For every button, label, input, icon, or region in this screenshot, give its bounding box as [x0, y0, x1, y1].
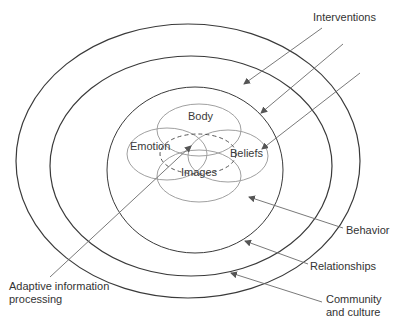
beliefs-label: Beliefs: [230, 147, 263, 160]
intervention-arrow-1: [244, 28, 322, 84]
community-label-line1: Community: [326, 293, 382, 306]
intervention-arrow-3: [262, 73, 360, 149]
aip-arrow: [50, 146, 191, 277]
community-arrow: [231, 273, 322, 302]
relationships-arrow: [245, 241, 308, 264]
behavior-arrow: [249, 197, 343, 228]
relationships-label: Relationships: [310, 260, 376, 273]
emotion-label: Emotion: [130, 140, 170, 153]
diagram-canvas: [0, 0, 398, 325]
aip-label-line2: processing: [9, 293, 62, 306]
aip-label-line1: Adaptive information: [9, 280, 109, 293]
body-label: Body: [188, 110, 213, 123]
images-label: Images: [181, 166, 217, 179]
interventions-label: Interventions: [313, 11, 376, 24]
community-label-line2: and culture: [326, 306, 380, 319]
behavior-label: Behavior: [346, 224, 389, 237]
intervention-arrow-2: [261, 44, 343, 113]
community-ring: [16, 24, 360, 298]
